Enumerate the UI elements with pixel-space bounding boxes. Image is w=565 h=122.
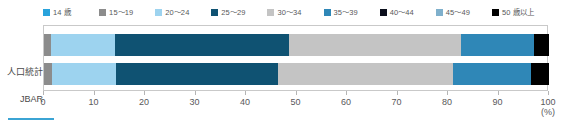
axis-tick-label: 70 xyxy=(391,97,401,107)
bar-segment xyxy=(531,63,549,85)
bar-segment xyxy=(534,34,549,56)
axis-tick-label: 50 xyxy=(290,97,300,107)
legend-swatch-icon xyxy=(99,9,106,16)
axis-tick xyxy=(195,91,196,95)
axis-tick-label: 10 xyxy=(88,97,98,107)
axis-tick-label: 30 xyxy=(189,97,199,107)
bar-segment xyxy=(52,63,117,85)
axis-tick xyxy=(397,91,398,95)
bar-row-jinko-tokei xyxy=(44,34,549,56)
legend-label: 20～24 xyxy=(165,8,189,17)
legend-item[interactable]: 35～39 xyxy=(324,8,380,17)
legend-swatch-icon xyxy=(43,9,50,16)
legend-label: 30～34 xyxy=(277,8,301,17)
legend-swatch-icon xyxy=(155,9,162,16)
bar-segment xyxy=(44,63,52,85)
x-axis-labels: 0102030405060708090100 xyxy=(0,97,565,109)
legend-swatch-icon xyxy=(324,9,331,16)
legend-swatch-icon xyxy=(492,9,499,16)
legend-item[interactable]: 30～34 xyxy=(267,8,323,17)
plot-area: 人口統計 JBAR xyxy=(43,25,548,91)
legend-swatch-icon xyxy=(380,9,387,16)
axis-tick xyxy=(498,91,499,95)
legend-item[interactable]: 14 歳 xyxy=(43,8,99,17)
axis-tick xyxy=(296,91,297,95)
bar-row-jbar xyxy=(44,63,549,85)
legend-item[interactable]: 20～24 xyxy=(155,8,211,17)
bar-segment xyxy=(44,34,51,56)
axis-tick xyxy=(144,91,145,95)
legend-label: 50 歳以上 xyxy=(502,8,534,17)
bar-segment xyxy=(289,34,461,56)
legend-label: 15～19 xyxy=(109,8,133,17)
axis-tick xyxy=(94,91,95,95)
axis-tick xyxy=(447,91,448,95)
legend-item[interactable]: 50 歳以上 xyxy=(492,8,548,17)
legend-label: 35～39 xyxy=(334,8,358,17)
bar-segment xyxy=(51,34,115,56)
axis-tick-label: 20 xyxy=(139,97,149,107)
bar-segment xyxy=(115,34,289,56)
decorative-rule xyxy=(8,118,54,120)
axis-tick-label: 100 xyxy=(540,97,555,107)
legend-label: 25～29 xyxy=(221,8,245,17)
axis-tick-label: 40 xyxy=(240,97,250,107)
row-label-jinko-tokei: 人口統計 xyxy=(1,65,43,78)
x-axis-unit-label: (%) xyxy=(541,107,555,117)
legend-item[interactable]: 45～49 xyxy=(436,8,492,17)
axis-tick xyxy=(346,91,347,95)
legend-item[interactable]: 40～44 xyxy=(380,8,436,17)
legend-item[interactable]: 25～29 xyxy=(211,8,267,17)
chart-legend: 14 歳15～1920～2425～2930～3435～3940～4445～495… xyxy=(43,5,548,20)
legend-item[interactable]: 15～19 xyxy=(99,8,155,17)
bar-segment xyxy=(461,34,534,56)
axis-tick-label: 0 xyxy=(40,97,45,107)
axis-tick-label: 60 xyxy=(341,97,351,107)
legend-swatch-icon xyxy=(267,9,274,16)
axis-tick-label: 80 xyxy=(442,97,452,107)
legend-swatch-icon xyxy=(211,9,218,16)
axis-tick xyxy=(245,91,246,95)
bar-segment xyxy=(116,63,278,85)
bar-segment xyxy=(453,63,531,85)
axis-tick-label: 90 xyxy=(492,97,502,107)
legend-label: 40～44 xyxy=(390,8,414,17)
legend-label: 14 歳 xyxy=(53,8,71,17)
bar-segment xyxy=(278,63,453,85)
legend-swatch-icon xyxy=(436,9,443,16)
stacked-bar-chart: 14 歳15～1920～2425～2930～3435～3940～4445～495… xyxy=(0,0,565,122)
axis-tick xyxy=(548,91,549,95)
axis-tick xyxy=(43,91,44,95)
legend-label: 45～49 xyxy=(446,8,470,17)
